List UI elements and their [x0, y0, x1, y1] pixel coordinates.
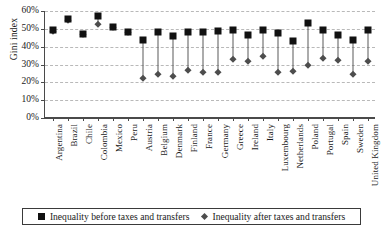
- square-marker-icon: [38, 213, 45, 220]
- connector-line: [187, 32, 188, 70]
- data-point-before: [290, 38, 297, 45]
- data-point-after: [230, 56, 236, 62]
- data-point-after: [290, 67, 296, 73]
- gini-index-chart: Gini index 60%50%40%30%20%10%0% Argentin…: [0, 0, 383, 237]
- data-point-before: [215, 27, 222, 34]
- connector-line: [142, 40, 143, 78]
- data-point-after: [155, 71, 161, 77]
- x-axis-label-denmark: Denmark: [175, 124, 184, 158]
- legend-label-after: Inequality after taxes and transfers: [212, 211, 345, 222]
- connector-line: [353, 40, 354, 75]
- x-axis-label-greece: Greece: [236, 124, 245, 150]
- data-point-before: [335, 32, 342, 39]
- gridline-60: [45, 11, 375, 12]
- y-tick-label: 60%: [3, 6, 39, 16]
- data-point-before: [169, 32, 176, 39]
- data-point-before: [199, 28, 206, 35]
- data-point-before: [275, 30, 282, 37]
- x-axis-label-austria: Austria: [145, 124, 154, 151]
- connector-line: [293, 41, 294, 70]
- y-tick-label: 30%: [3, 60, 39, 70]
- x-axis-label-netherlands: Netherlands: [296, 124, 305, 169]
- diamond-marker-icon: [201, 213, 208, 220]
- data-point-after: [260, 53, 266, 59]
- connector-line: [218, 31, 219, 72]
- data-point-after: [140, 75, 146, 81]
- data-point-before: [49, 26, 56, 33]
- legend-item-after: Inequality after taxes and transfers: [202, 211, 345, 222]
- data-point-after: [215, 68, 221, 74]
- plot-area: 60%50%40%30%20%10%0%: [44, 11, 375, 118]
- y-tick-label: 0%: [3, 113, 39, 123]
- x-axis-label-poland: Poland: [311, 124, 320, 150]
- x-axis-label-france: France: [205, 124, 214, 149]
- data-point-before: [139, 36, 146, 43]
- connector-line: [157, 32, 158, 74]
- data-point-before: [350, 36, 357, 43]
- x-axis-label-portugal: Portugal: [326, 124, 335, 155]
- y-tick-mark: [41, 100, 45, 101]
- y-tick-mark: [41, 82, 45, 83]
- data-point-before: [109, 24, 116, 31]
- legend-item-before: Inequality before taxes and transfers: [38, 211, 190, 222]
- x-axis-label-italy: Italy: [266, 124, 275, 141]
- x-axis-label-luxembourg: Luxembourg: [281, 124, 290, 171]
- connector-line: [368, 30, 369, 61]
- y-tick-mark: [41, 29, 45, 30]
- data-point-after: [365, 58, 371, 64]
- data-point-before: [260, 26, 267, 33]
- x-axis-label-mexico: Mexico: [115, 124, 124, 152]
- data-point-before: [94, 13, 101, 20]
- data-point-before: [79, 31, 86, 38]
- data-point-before: [154, 28, 161, 35]
- legend-label-before: Inequality before taxes and transfers: [50, 211, 190, 222]
- x-axis-category-labels: ArgentinaBrazilChileColombiaMexicoPeruAu…: [44, 118, 375, 200]
- y-tick-label: 10%: [3, 95, 39, 105]
- data-point-before: [365, 26, 372, 33]
- data-point-after: [305, 61, 311, 67]
- y-tick-mark: [41, 47, 45, 48]
- connector-line: [202, 32, 203, 72]
- y-tick-label: 40%: [3, 42, 39, 52]
- y-tick-mark: [41, 11, 45, 12]
- data-point-after: [350, 71, 356, 77]
- connector-line: [308, 23, 309, 64]
- data-point-after: [335, 57, 341, 63]
- data-point-before: [305, 20, 312, 27]
- data-point-before: [230, 26, 237, 33]
- x-axis-label-argentina: Argentina: [55, 124, 64, 161]
- gridline-20: [45, 82, 375, 83]
- data-point-after: [245, 58, 251, 64]
- x-axis-label-colombia: Colombia: [100, 124, 109, 160]
- x-axis-label-sweden: Sweden: [356, 124, 365, 153]
- data-point-after: [170, 73, 176, 79]
- connector-line: [172, 36, 173, 76]
- connector-line: [278, 33, 279, 71]
- y-tick-label: 20%: [3, 78, 39, 88]
- y-tick-label: 50%: [3, 24, 39, 34]
- data-point-before: [124, 28, 131, 35]
- x-axis-label-brazil: Brazil: [70, 124, 79, 147]
- gridline-40: [45, 47, 375, 48]
- data-point-before: [320, 26, 327, 33]
- y-tick-mark: [41, 65, 45, 66]
- x-axis-label-finland: Finland: [190, 124, 199, 152]
- x-axis-label-ireland: Ireland: [251, 124, 260, 150]
- gridline-30: [45, 65, 375, 66]
- x-axis-label-united-kingdom: United Kingdom: [371, 124, 380, 186]
- data-point-after: [320, 55, 326, 61]
- x-axis-label-belgium: Belgium: [160, 124, 169, 156]
- data-point-after: [275, 68, 281, 74]
- x-axis-label-peru: Peru: [130, 124, 139, 141]
- data-point-before: [245, 32, 252, 39]
- data-point-after: [94, 21, 100, 27]
- data-point-before: [184, 28, 191, 35]
- chart-legend: Inequality before taxes and transfers In…: [22, 208, 361, 225]
- x-axis-label-chile: Chile: [85, 124, 94, 144]
- x-axis-label-germany: Germany: [221, 124, 230, 158]
- data-point-before: [64, 16, 71, 23]
- gridline-10: [45, 100, 375, 101]
- x-axis-label-spain: Spain: [341, 124, 350, 145]
- data-point-after: [185, 67, 191, 73]
- data-point-after: [200, 68, 206, 74]
